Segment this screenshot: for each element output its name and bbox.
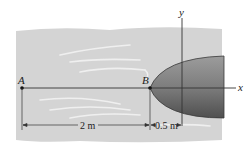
point-b-label: B [142,74,149,86]
y-axis-label: y [178,6,184,18]
dimension-b-origin-label: 0.5 m [155,120,178,131]
x-axis-label: x [237,81,243,93]
dimension-ab-label: 2 m [80,120,96,131]
point-a-label: A [17,74,25,86]
flow-diagram: x y A B 2 m 0.5 m [0,0,251,150]
